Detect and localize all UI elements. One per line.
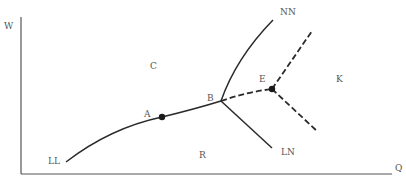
curve-ll-label: LL [48, 156, 60, 166]
region-r-label: R [199, 150, 206, 160]
curve-ln [221, 101, 272, 148]
point-a-label: A [143, 109, 151, 119]
region-c-label: C [150, 61, 157, 71]
x-axis-label: Q [395, 163, 402, 173]
phase-diagram: W Q A B E LL NN LN C K R [0, 0, 406, 185]
point-e-label: E [259, 74, 266, 84]
point-e-marker [269, 86, 275, 92]
point-a-marker [159, 114, 165, 120]
dashed-b-e [221, 89, 272, 101]
curve-ln-label: LN [281, 147, 295, 157]
y-axis-label: W [4, 21, 14, 31]
curve-nn [221, 20, 273, 101]
curve-nn-label: NN [280, 7, 296, 17]
dashed-e-upper [272, 31, 312, 89]
dashed-e-lower [272, 89, 318, 132]
region-k-label: K [336, 74, 343, 84]
point-b-label: B [207, 93, 214, 103]
